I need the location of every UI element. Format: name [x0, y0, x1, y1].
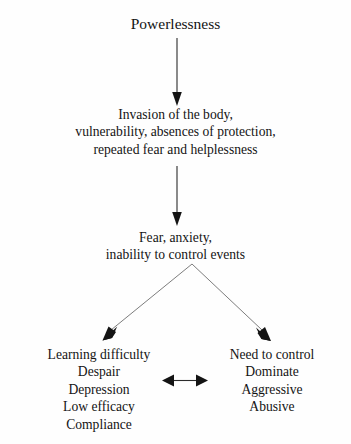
node-learning-difficulty-line-1: Learning difficulty — [30, 346, 168, 363]
node-fear-line-2: inability to control events — [0, 246, 351, 263]
node-learning-difficulty-line-3: Depression — [30, 381, 168, 398]
arrow-powerlessness-to-invasion — [172, 38, 182, 106]
node-need-to-control-line-4: Abusive — [206, 398, 338, 415]
node-need-to-control-line-1: Need to control — [206, 346, 338, 363]
node-learning-difficulty-line-5: Compliance — [30, 416, 168, 433]
node-invasion-line-3: repeated fear and helplessness — [0, 141, 351, 158]
flowchart-diagram: Powerlessness Invasion of the body, vuln… — [0, 0, 351, 444]
node-powerlessness: Powerlessness — [0, 14, 351, 34]
node-learning-difficulty-line-2: Despair — [30, 363, 168, 380]
node-fear: Fear, anxiety, inability to control even… — [0, 229, 351, 264]
node-learning-difficulty: Learning difficulty Despair Depression L… — [30, 346, 168, 433]
node-fear-line-1: Fear, anxiety, — [0, 229, 351, 246]
node-learning-difficulty-line-4: Low efficacy — [30, 398, 168, 415]
node-invasion-line-2: vulnerability, absences of protection, — [0, 123, 351, 140]
arrow-learning-difficulty-to-need-to-control — [162, 375, 208, 387]
arrow-fear-to-need-to-control — [192, 264, 271, 341]
node-need-to-control-line-2: Dominate — [206, 363, 338, 380]
arrow-invasion-to-fear — [172, 166, 182, 226]
node-need-to-control-line-3: Aggressive — [206, 381, 338, 398]
node-powerlessness-line-1: Powerlessness — [0, 14, 351, 34]
node-invasion: Invasion of the body, vulnerability, abs… — [0, 106, 351, 158]
node-need-to-control: Need to control Dominate Aggressive Abus… — [206, 346, 338, 416]
arrow-fear-to-learning-difficulty — [103, 264, 193, 341]
node-invasion-line-1: Invasion of the body, — [0, 106, 351, 123]
